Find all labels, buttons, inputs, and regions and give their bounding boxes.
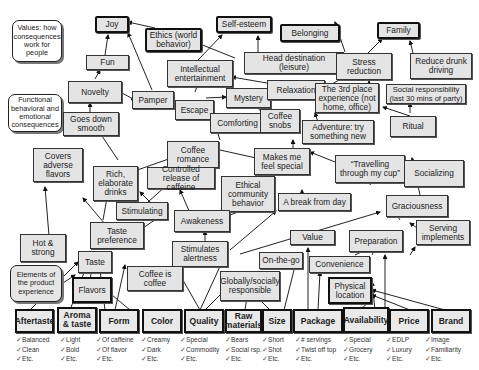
node-on-the-go: On-the-go: [259, 252, 303, 269]
checklist-price: EDLPLuxuryEtc.: [386, 335, 412, 364]
value-belonging: Belonging: [280, 24, 340, 42]
checklist-aftertaste: BalancedCleanEtc.: [16, 335, 50, 364]
node-escape: Escape: [175, 100, 214, 120]
node-goes-down-smooth: Goes down smooth: [63, 112, 119, 136]
means-end-chain-diagram: Values: how consequences work for people…: [0, 0, 479, 370]
node-preparation: Preparation: [349, 230, 403, 252]
node-makes-me-feel-special: Makes me feel special: [254, 148, 310, 175]
attribute-form: Form: [99, 309, 139, 333]
node-comforting: Comforting: [210, 113, 265, 133]
node-stimulates-alertness: Stimulates alertness: [172, 241, 228, 267]
node-third-place: The 3rd place experience (not home, offi…: [315, 83, 379, 113]
node-taste: Taste: [78, 251, 112, 273]
value-ethics: Ethics (world behavior): [145, 28, 202, 52]
node-novelty: Novelty: [68, 81, 122, 103]
attribute-brand: Brand: [431, 309, 471, 333]
checklist-package: # servingsTwist off topEtc.: [295, 335, 336, 364]
node-convenience: Convenience: [309, 256, 370, 273]
attribute-price: Price: [389, 309, 429, 333]
checklist-aroma-taste: LightBoldEtc.: [60, 335, 80, 364]
node-socializing: Socializing: [404, 160, 464, 187]
node-value: Value: [290, 230, 335, 245]
checklist-quality: SpecialCommodityEtc.: [180, 335, 219, 364]
checklist-color: CreamyDarkEtc.: [141, 335, 170, 364]
node-awakeness: Awakeness: [174, 210, 230, 232]
node-taste-preference: Taste preference: [90, 222, 144, 249]
node-graciousness: Graciousness: [386, 195, 448, 217]
node-ethical-community-behavior: Ethical community behavior: [221, 176, 275, 212]
attribute-size: Size: [262, 309, 292, 333]
checklist-size: ShortShotEtc.: [262, 335, 284, 364]
value-joy: Joy: [95, 16, 129, 33]
attribute-quality: Quality: [184, 309, 224, 333]
node-covers-adverse-flavors: Covers adverse flavors: [33, 148, 83, 182]
attribute-availability: Availability: [343, 307, 389, 333]
attribute-raw-materials: Raw materials: [225, 309, 262, 333]
checklist-brand: ImageFamiliarityEtc.: [425, 335, 461, 364]
legend-values: Values: how consequences work for people: [12, 20, 62, 62]
node-hot-strong: Hot & strong: [20, 234, 66, 262]
node-head-destination: Head destination (leisure): [244, 52, 344, 74]
node-flavors: Flavors: [72, 277, 112, 303]
node-serving-implements: Serving implements: [416, 220, 470, 245]
attribute-package: Package: [293, 309, 343, 333]
node-intellectual-entertainment: Intellectual entertainment: [167, 60, 233, 87]
node-rich-elaborate-drinks: Rich, elaborate drinks: [93, 166, 138, 201]
attribute-aroma-taste: Aroma & taste: [57, 307, 97, 333]
attribute-color: Color: [142, 309, 182, 333]
node-adventure: Adventure: try something new: [302, 120, 374, 144]
node-coffee-is-coffee: Coffee is coffee: [127, 266, 183, 291]
node-ritual: Ritual: [390, 116, 436, 137]
value-self-esteem: Self-esteem: [216, 16, 272, 33]
checklist-form: Of caffeineOf flavorEtc.: [96, 335, 134, 364]
node-physical-location: Physical location: [328, 277, 372, 304]
node-break-from-day: A break from day: [278, 193, 351, 211]
node-social-responsibility: Social responsibility (last 30 mins of p…: [386, 84, 466, 104]
node-pamper: Pamper: [132, 91, 174, 109]
checklist-raw-materials: BearsSocial rsp.Etc.: [225, 335, 262, 364]
checklist-availability: SpecialGroceryEtc.: [343, 335, 372, 364]
node-coffee-snobs: Coffee snobs: [260, 109, 300, 133]
attribute-aftertaste: Aftertaste: [15, 309, 54, 333]
legend-attributes: Elements of the product experience: [10, 265, 62, 302]
node-controlled-release: Controlled release of caffeine: [147, 167, 215, 189]
node-travelling-through-my-cup: “Travelling through my cup”: [335, 155, 405, 183]
node-mystery: Mystery: [226, 88, 271, 108]
node-stress-reduction: Stress reduction: [336, 53, 392, 80]
node-globally-socially-responsible: Globally/socially responsible: [220, 271, 280, 301]
node-fun: Fun: [86, 55, 129, 70]
legend-consequences: Functional behavioral and emotional cons…: [8, 94, 62, 132]
node-reduce-drunk-driving: Reduce drunk driving: [410, 53, 472, 79]
node-stimulating: Stimulating: [116, 202, 168, 220]
value-family: Family: [377, 22, 420, 39]
